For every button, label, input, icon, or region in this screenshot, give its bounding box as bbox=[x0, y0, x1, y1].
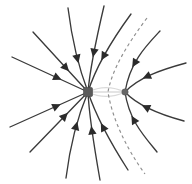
field-line-canvas bbox=[0, 0, 192, 184]
field-diagram-root bbox=[0, 0, 192, 184]
large-negative-charge bbox=[84, 88, 93, 97]
small-negative-charge bbox=[122, 89, 128, 95]
